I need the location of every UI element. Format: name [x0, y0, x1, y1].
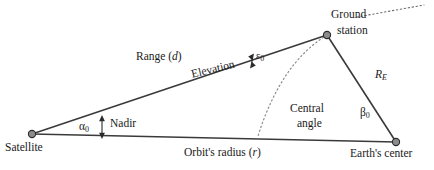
range-label: Range (d) [136, 50, 182, 62]
orbit-radius-text: Orbit's radius ( [184, 146, 253, 158]
orbit-radius-label: Orbit's radius (r) [184, 146, 261, 158]
earth-radius-label: RE [375, 68, 387, 82]
earth-radius-var: R [375, 68, 382, 80]
satellite-label: Satellite [5, 141, 43, 153]
satellite-node [28, 130, 35, 137]
epsilon-subscript: 0 [260, 54, 264, 63]
central-angle-symbol: β0 [360, 106, 370, 120]
elevation-angle-symbol: ε0 [256, 51, 264, 63]
ground-station-label-line2: station [337, 24, 368, 36]
orbit-radius-line [32, 134, 396, 142]
satellite-geometry-diagram: Satellite Ground station Earth's center … [0, 0, 434, 170]
beta-subscript: 0 [366, 111, 370, 120]
alpha-subscript: 0 [85, 125, 89, 134]
horizon-dotted-line [357, 5, 424, 17]
earth-radius-line [327, 35, 396, 142]
earth-center-node [392, 138, 399, 145]
range-label-text: Range ( [136, 50, 172, 62]
range-label-close: ) [178, 50, 182, 62]
diagram-canvas [0, 0, 434, 170]
central-angle-label-line1: Central [290, 102, 324, 114]
ground-station-node [323, 31, 330, 38]
ground-station-label-line1: Ground [331, 8, 366, 20]
orbit-radius-close: ) [257, 146, 261, 158]
nadir-label: Nadir [110, 117, 136, 129]
earth-center-label: Earth's center [350, 147, 412, 159]
nadir-angle-symbol: α0 [79, 120, 89, 134]
central-angle-label-line2: angle [297, 117, 322, 129]
earth-radius-sub: E [382, 73, 387, 82]
